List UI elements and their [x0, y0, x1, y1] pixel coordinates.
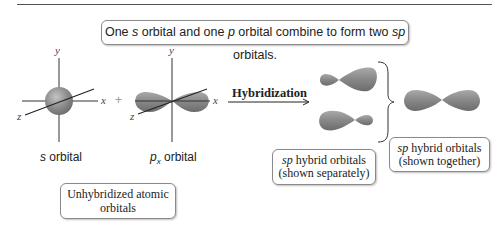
caption-line: Unhybridized atomic [61, 187, 175, 201]
caption-line: (shown separately) [273, 167, 375, 180]
s-orbital-label: s orbital [40, 150, 82, 164]
hybridization-label: Hybridization [232, 86, 307, 101]
caption-text: hybrid orbitals [408, 141, 481, 155]
s-z-axis-label: z [17, 110, 21, 122]
caption-line: orbitals [61, 201, 175, 215]
sp-hybrid-together [404, 90, 480, 111]
s-orbital-figure [22, 58, 98, 142]
sp-separate-caption-box: sp hybrid orbitals (shown separately) [272, 149, 376, 185]
px-y-axis-label: y [169, 44, 174, 56]
sp-together-caption-box: sp hybrid orbitals (shown together) [389, 137, 490, 172]
s-y-axis-label: y [55, 44, 60, 56]
px-x-axis-label: x [213, 94, 218, 106]
unhybridized-caption-box: Unhybridized atomic orbitals [60, 183, 176, 219]
px-lobe-left [135, 92, 172, 112]
px-z-axis-label: z [130, 110, 134, 122]
orbital-word: orbital [161, 150, 197, 164]
plus-sign: + [115, 93, 122, 107]
px-orbital-label: px orbital [150, 150, 197, 166]
grouping-brace [378, 62, 394, 142]
px-orbital-figure [135, 58, 210, 142]
orbital-word: orbital [46, 150, 82, 164]
p-letter: p [150, 150, 157, 164]
sp-hybrid-top [320, 68, 377, 92]
caption-text: hybrid orbitals [293, 153, 366, 167]
s-orbital-sphere [45, 87, 73, 115]
sp-hybrid-bottom [319, 111, 373, 131]
sp-text: sp [282, 153, 293, 167]
s-x-axis-label: x [101, 94, 106, 106]
caption-line: (shown together) [390, 155, 489, 168]
sp-text: sp [398, 141, 409, 155]
